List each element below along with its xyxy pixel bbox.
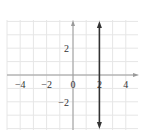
y-tick-label: −2	[58, 97, 69, 108]
x-tick-label: −4	[15, 79, 26, 90]
arrow-down-icon	[97, 122, 102, 129]
x-tick-label: 0	[71, 79, 76, 90]
x-axis-arrow-icon	[133, 73, 139, 77]
coordinate-plane: −4−2024 2−2	[0, 0, 143, 134]
x-tick-label: −2	[41, 79, 52, 90]
x-tick-label: 4	[123, 79, 128, 90]
axes	[7, 20, 139, 130]
arrow-up-icon	[97, 21, 102, 28]
y-tick-label: 2	[64, 43, 69, 54]
